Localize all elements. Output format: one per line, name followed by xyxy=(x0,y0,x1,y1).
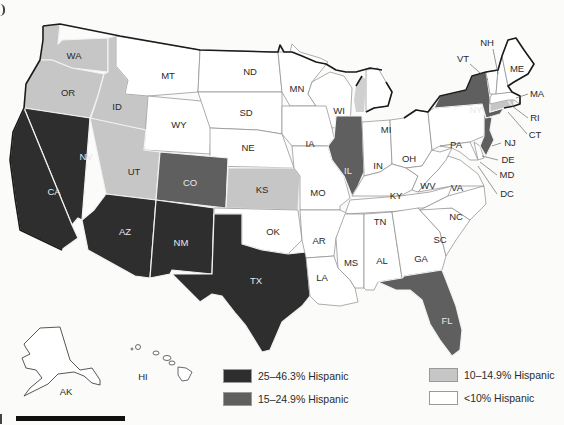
svg-text:MD: MD xyxy=(500,169,515,180)
svg-text:SC: SC xyxy=(433,234,446,245)
us-choropleth-map: WA OR ID MT WY ND SD NE MN WI MI IA IL I… xyxy=(0,0,564,425)
legend-label: <10% Hispanic xyxy=(464,392,534,404)
svg-text:MA: MA xyxy=(530,88,545,99)
state-MI-lake xyxy=(354,76,366,112)
svg-text:RI: RI xyxy=(530,112,540,123)
svg-text:NM: NM xyxy=(174,237,189,248)
state-FL[interactable] xyxy=(378,270,462,356)
svg-text:NE: NE xyxy=(241,142,254,153)
scale-bar xyxy=(16,416,125,421)
svg-text:TN: TN xyxy=(374,216,387,227)
svg-text:FL: FL xyxy=(441,315,452,326)
legend-label: 25–46.3% Hispanic xyxy=(258,370,348,382)
legend-swatch xyxy=(429,391,458,405)
legend-item-25-46: 25–46.3% Hispanic xyxy=(223,369,348,383)
svg-text:OR: OR xyxy=(61,87,75,98)
svg-text:CO: CO xyxy=(183,177,197,188)
svg-text:NC: NC xyxy=(449,211,463,222)
legend-swatch xyxy=(223,369,252,383)
svg-text:VA: VA xyxy=(451,182,464,193)
svg-text:WA: WA xyxy=(67,50,83,61)
svg-text:IN: IN xyxy=(373,160,383,171)
legend-item-lt10: <10% Hispanic xyxy=(429,391,534,405)
legend-item-15-24: 15–24.9% Hispanic xyxy=(223,392,348,406)
svg-text:KS: KS xyxy=(256,184,269,195)
svg-text:IL: IL xyxy=(344,165,352,176)
svg-text:ID: ID xyxy=(112,101,122,112)
svg-text:AL: AL xyxy=(376,255,388,266)
svg-text:GA: GA xyxy=(414,253,428,264)
svg-text:ME: ME xyxy=(510,63,524,74)
svg-text:SD: SD xyxy=(239,107,252,118)
svg-text:OH: OH xyxy=(402,153,416,164)
svg-text:AK: AK xyxy=(60,386,73,397)
state-MT[interactable] xyxy=(116,36,200,96)
svg-text:AR: AR xyxy=(312,235,325,246)
svg-text:CA: CA xyxy=(47,186,61,197)
svg-text:NY: NY xyxy=(469,104,483,115)
legend-swatch xyxy=(429,368,458,382)
svg-text:DE: DE xyxy=(501,154,514,165)
legend-label: 10–14.9% Hispanic xyxy=(464,369,554,381)
svg-text:NH: NH xyxy=(480,37,494,48)
svg-text:MN: MN xyxy=(290,83,305,94)
svg-text:MI: MI xyxy=(381,124,392,135)
legend-item-10-14: 10–14.9% Hispanic xyxy=(429,368,554,382)
svg-text:MS: MS xyxy=(344,257,358,268)
svg-text:MT: MT xyxy=(161,70,175,81)
svg-text:PA: PA xyxy=(450,139,463,150)
svg-text:VT: VT xyxy=(457,53,469,64)
svg-text:TX: TX xyxy=(250,275,263,286)
state-ND[interactable] xyxy=(198,50,282,92)
svg-text:KY: KY xyxy=(390,190,403,201)
svg-text:UT: UT xyxy=(128,166,141,177)
svg-text:DC: DC xyxy=(500,188,514,199)
svg-text:ND: ND xyxy=(243,66,257,77)
svg-text:WV: WV xyxy=(420,180,436,191)
svg-text:WY: WY xyxy=(171,119,187,130)
svg-text:AZ: AZ xyxy=(119,226,131,237)
svg-text:LA: LA xyxy=(316,272,328,283)
svg-text:NJ: NJ xyxy=(504,137,516,148)
svg-text:NV: NV xyxy=(79,151,93,162)
svg-text:MO: MO xyxy=(310,187,325,198)
svg-text:OK: OK xyxy=(266,226,280,237)
svg-text:IA: IA xyxy=(306,138,316,149)
legend-label: 15–24.9% Hispanic xyxy=(258,393,348,405)
svg-text:CT: CT xyxy=(529,129,542,140)
legend-swatch xyxy=(223,392,252,406)
svg-text:WI: WI xyxy=(333,105,345,116)
svg-text:HI: HI xyxy=(138,371,148,382)
